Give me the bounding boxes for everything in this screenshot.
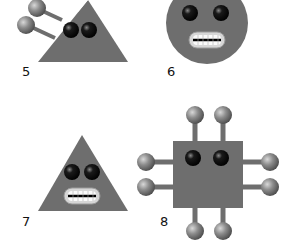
- figure-label-5: 5: [22, 64, 30, 79]
- antenna-ball-icon: [17, 16, 35, 34]
- antenna-ball-icon: [261, 153, 279, 171]
- figure-label-7: 7: [22, 214, 30, 229]
- eye-icon: [185, 150, 201, 166]
- figures-canvas: [0, 0, 292, 240]
- antenna-ball-icon: [186, 106, 204, 124]
- figure-label-8: 8: [160, 214, 168, 229]
- figure-5: [17, 0, 128, 62]
- teeth-mouth-icon: [189, 32, 225, 48]
- eye-icon: [213, 5, 229, 21]
- eye-icon: [63, 22, 79, 38]
- square-body: [173, 141, 243, 208]
- eye-icon: [84, 164, 100, 180]
- antenna-ball-icon: [214, 222, 232, 240]
- eye-icon: [182, 5, 198, 21]
- eye-icon: [213, 150, 229, 166]
- teeth-mouth-icon: [64, 188, 100, 204]
- figure-7: [38, 135, 128, 211]
- antenna-ball-icon: [261, 178, 279, 196]
- antenna-ball-icon: [28, 0, 46, 17]
- figure-6: [166, 0, 248, 64]
- antenna-ball-icon: [186, 222, 204, 240]
- figure-8: [137, 106, 279, 240]
- antenna-ball-icon: [137, 153, 155, 171]
- eye-icon: [81, 22, 97, 38]
- eye-icon: [64, 164, 80, 180]
- antenna-ball-icon: [137, 178, 155, 196]
- antenna-ball-icon: [214, 106, 232, 124]
- figure-label-6: 6: [167, 64, 175, 79]
